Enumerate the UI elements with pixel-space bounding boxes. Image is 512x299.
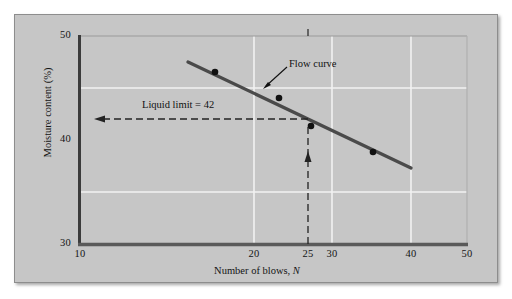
x-tick-label-25: 25 [295,248,321,259]
x-axis-title-symbol: N [293,265,300,276]
x-tick-label-50: 50 [454,248,480,259]
figure-panel: 50 40 30 10 20 25 30 40 50 Moisture cont… [14,14,498,283]
y-tick-label-30: 30 [39,237,71,248]
data-point [370,149,377,156]
data-point [276,95,283,102]
plot-area-background [79,36,467,244]
x-axis-title: Number of blows, N [15,265,499,276]
flow-curve-annotation-label: Flow curve [289,58,337,69]
y-tick-label-50: 50 [39,29,71,40]
x-tick-label-30: 30 [319,248,345,259]
x-tick-label-20: 20 [241,248,267,259]
y-axis-title: Moisture content (%) [42,53,53,173]
data-point [212,69,219,76]
x-tick-label-10: 10 [67,248,93,259]
x-tick-label-40: 40 [398,248,424,259]
chart-canvas [15,15,499,284]
x-axis-title-text: Number of blows, [214,265,290,276]
liquid-limit-annotation-label: Liquid limit = 42 [142,99,214,110]
data-point [308,123,315,130]
